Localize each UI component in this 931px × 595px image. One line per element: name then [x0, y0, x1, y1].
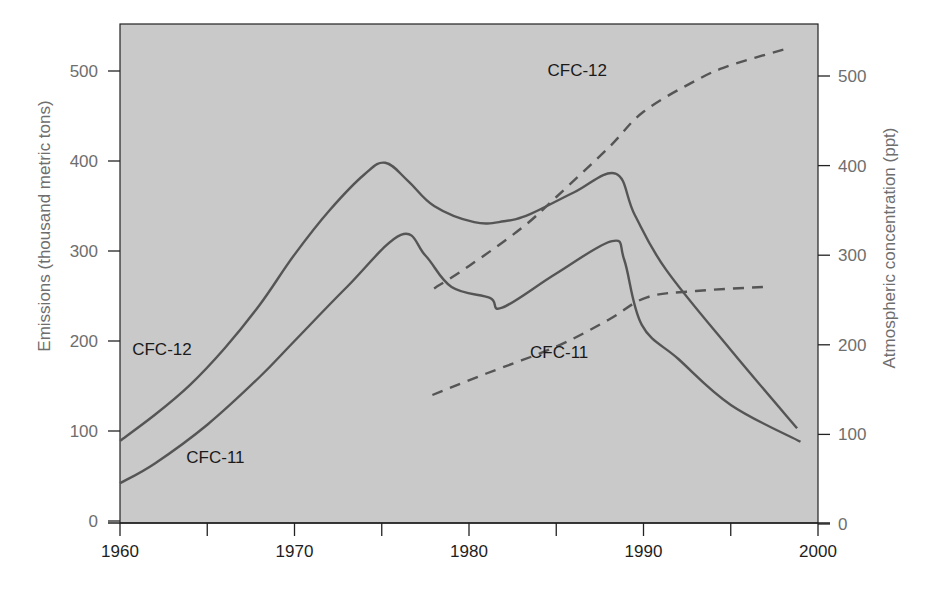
series-label: CFC-12	[132, 340, 192, 359]
series-label: CFC-11	[530, 343, 588, 362]
y2-tick-label: 0	[838, 515, 847, 534]
y2-tick-label: 300	[838, 246, 866, 265]
y-axis-left: 0100200300400500	[70, 62, 120, 531]
y-tick-label: 0	[89, 512, 98, 531]
y-axis-right-title: Atmospheric concentration (ppt)	[880, 128, 899, 369]
y2-tick-label: 100	[838, 425, 866, 444]
y-axis-right: 0100200300400500	[818, 67, 866, 534]
y2-tick-label: 500	[838, 67, 866, 86]
y-tick-label: 200	[70, 332, 98, 351]
x-axis: 19601970198019902000	[101, 523, 837, 561]
y-tick-label: 300	[70, 242, 98, 261]
x-tick-label: 1960	[101, 542, 139, 561]
y-tick-label: 400	[70, 152, 98, 171]
y2-tick-label: 400	[838, 157, 866, 176]
x-tick-label: 1980	[450, 542, 488, 561]
y-tick-label: 100	[70, 422, 98, 441]
x-tick-label: 1990	[625, 542, 663, 561]
series-label: CFC-11	[186, 448, 244, 467]
y-axis-left-title: Emissions (thousand metric tons)	[35, 100, 54, 351]
y-tick-label: 500	[70, 62, 98, 81]
cfc-chart: 0100200300400500 0100200300400500 196019…	[0, 0, 931, 595]
x-tick-label: 1970	[276, 542, 314, 561]
x-tick-label: 2000	[799, 542, 837, 561]
series-label: CFC-12	[548, 61, 608, 80]
y2-tick-label: 200	[838, 336, 866, 355]
